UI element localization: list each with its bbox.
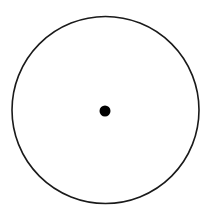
diagram-canvas — [0, 0, 211, 217]
center-dot — [100, 106, 111, 117]
